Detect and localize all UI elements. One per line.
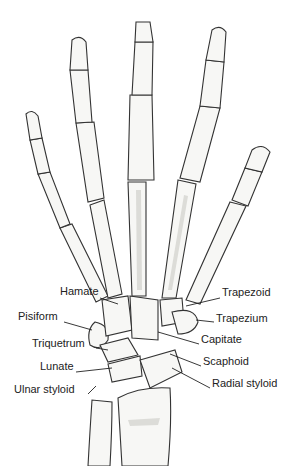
label-triquetrum: Triquetrum [32, 337, 85, 349]
label-ulnar-styloid: Ulnar styloid [14, 383, 75, 395]
label-trapezium: Trapezium [216, 312, 268, 324]
ulna-shaft [88, 400, 112, 466]
label-hamate: Hamate [60, 285, 99, 297]
proximal-phalanx-1 [232, 168, 262, 206]
middle-phalanx-2 [200, 60, 224, 108]
radius-shaft [118, 388, 171, 466]
proximal-phalanx-3 [128, 95, 154, 180]
middle-phalanx-3 [132, 42, 153, 95]
distal-phalanx-4 [70, 37, 88, 70]
label-radial-styloid: Radial styloid [212, 377, 277, 389]
distal-phalanx-3 [135, 22, 153, 42]
middle-phalanx-4 [70, 70, 92, 123]
distal-phalanx-5 [26, 111, 42, 140]
proximal-phalanx-5 [38, 172, 70, 228]
proximal-phalanx-2 [180, 106, 220, 182]
trapezium [172, 310, 198, 334]
scaphoid [140, 350, 182, 388]
distal-phalanx-1 [245, 146, 270, 172]
label-pisiform: Pisiform [18, 310, 58, 322]
middle-phalanx-5 [30, 138, 50, 174]
distal-phalanx-2 [206, 27, 226, 62]
label-capitate: Capitate [201, 333, 242, 345]
proximal-phalanx-4 [76, 122, 104, 202]
capitate [130, 296, 158, 340]
label-lunate: Lunate [40, 360, 74, 372]
hand-bones-diagram: Hamate Pisiform Triquetrum Lunate Ulnar … [0, 0, 290, 466]
hamate [102, 296, 132, 336]
label-scaphoid: Scaphoid [203, 355, 249, 367]
label-trapezoid: Trapezoid [222, 286, 271, 298]
hand-skeleton-illustration [0, 0, 290, 466]
